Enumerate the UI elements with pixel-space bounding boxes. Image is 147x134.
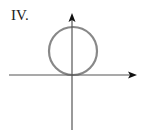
- coordinate-diagram: [0, 0, 147, 134]
- circle: [49, 27, 97, 75]
- x-axis: [9, 72, 137, 79]
- y-axis: [69, 13, 76, 130]
